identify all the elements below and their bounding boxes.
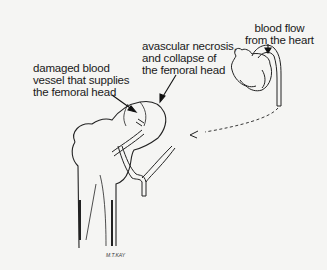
label-line: avascular necrosis, <box>142 40 237 52</box>
label-blood-flow: blood flow from the heart <box>245 22 314 46</box>
femoral-vessels <box>112 119 175 196</box>
label-line: the femoral head <box>142 64 237 76</box>
label-damaged-vessel: damaged blood vessel that supplies the f… <box>33 62 129 98</box>
arrowhead-icon <box>190 131 198 138</box>
label-line: from the heart <box>245 34 314 46</box>
artist-signature: M.T.KAY <box>106 252 125 258</box>
blood-flow-path <box>205 108 278 132</box>
heart-illustration <box>231 45 281 106</box>
label-line: vessel that supplies <box>33 74 129 86</box>
label-line: and collapse of <box>142 52 237 64</box>
label-line: blood flow <box>245 22 314 34</box>
label-line: the femoral head <box>33 86 129 98</box>
label-necrosis: avascular necrosis, and collapse of the … <box>142 40 237 76</box>
label-line: damaged blood <box>33 62 129 74</box>
